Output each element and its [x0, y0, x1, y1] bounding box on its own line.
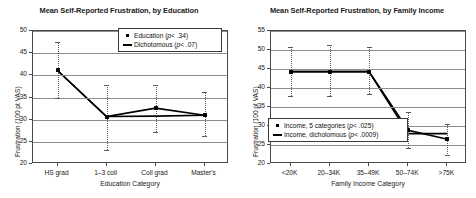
legend-p-value: < .34) [171, 32, 188, 39]
error-bar-cap [153, 85, 158, 86]
y-tick-mark [29, 74, 32, 75]
legend-family-income: Income, 5 categories (p < .025)Income, d… [268, 118, 408, 142]
gridline [271, 31, 465, 32]
gridline [33, 98, 227, 99]
legend-marker-icon [272, 124, 283, 127]
y-tick-label: 40 [246, 83, 265, 90]
data-point-marker [154, 106, 158, 110]
y-tick-label: 35 [8, 93, 27, 100]
x-tick-mark [106, 163, 107, 166]
legend-line-icon [122, 44, 133, 46]
legend-label: Income, 5 categories ( [283, 122, 349, 129]
y-tick-label: 20 [8, 159, 27, 166]
line-marker-icon [273, 134, 282, 136]
series-polyline [58, 70, 205, 116]
error-bar-cap [202, 92, 207, 93]
error-bar-cap [445, 124, 450, 125]
panel-title-family-income: Mean Self-Reported Frustration, by Famil… [238, 6, 476, 15]
data-point-marker [105, 115, 109, 119]
y-tick-mark [29, 163, 32, 164]
error-bar-cap [104, 85, 109, 86]
square-marker-icon [126, 34, 129, 37]
y-tick-mark [267, 30, 270, 31]
gridline [271, 50, 465, 51]
legend-label: Income, dicholomous ( [283, 131, 350, 138]
x-tick-label: Master's [174, 169, 234, 176]
y-tick-label: 45 [8, 48, 27, 55]
error-bar-cap [445, 155, 450, 156]
legend-item: Education (p < .34) [122, 31, 217, 40]
legend-item: Dichotomous (p < .07) [122, 40, 217, 49]
y-tick-mark [267, 106, 270, 107]
y-tick-mark [29, 30, 32, 31]
data-point-marker [328, 70, 332, 74]
error-bar-cap [153, 132, 158, 133]
data-point-marker [203, 113, 207, 117]
x-tick-mark [290, 163, 291, 166]
y-tick-label: 30 [246, 121, 265, 128]
y-tick-label: 35 [246, 102, 265, 109]
x-tick-mark [329, 163, 330, 166]
panel-family-income: Mean Self-Reported Frustration, by Famil… [238, 0, 476, 198]
y-tick-label: 25 [246, 140, 265, 147]
y-tick-label: 45 [246, 64, 265, 71]
gridline [33, 142, 227, 143]
y-tick-label: 30 [8, 115, 27, 122]
panel-title-education: Mean Self-Reported Frustration, by Educa… [0, 6, 238, 15]
error-bar-cap [104, 150, 109, 151]
legend-marker-icon [122, 34, 133, 37]
y-tick-mark [267, 68, 270, 69]
gridline [271, 145, 465, 146]
y-tick-mark [29, 141, 32, 142]
legend-line-icon [272, 134, 283, 136]
x-tick-mark [204, 163, 205, 166]
gridline [33, 120, 227, 121]
data-point-marker [367, 70, 371, 74]
square-marker-icon [276, 124, 279, 127]
legend-item: Income, 5 categories (p < .025) [272, 121, 403, 130]
figure-two-panel-chart: Mean Self-Reported Frustration, by Educa… [0, 0, 476, 198]
plot-area-family-income [270, 30, 466, 163]
y-tick-mark [267, 87, 270, 88]
y-tick-mark [29, 97, 32, 98]
y-tick-label: 50 [8, 26, 27, 33]
y-tick-label: 50 [246, 45, 265, 52]
error-bar-cap [288, 47, 293, 48]
data-point-marker [289, 70, 293, 74]
y-tick-mark [29, 119, 32, 120]
y-tick-label: 40 [8, 70, 27, 77]
legend-p-value: < .025) [353, 122, 374, 129]
y-tick-mark [29, 52, 32, 53]
x-tick-label: >75K [416, 169, 476, 176]
legend-item: Income, dicholomous (p < .0009) [272, 130, 403, 139]
y-tick-label: 20 [246, 159, 265, 166]
x-tick-mark [57, 163, 58, 166]
gridline [33, 75, 227, 76]
y-tick-mark [267, 144, 270, 145]
error-bar-cap [367, 47, 372, 48]
error-bar-cap [406, 148, 411, 149]
x-axis-label-education: Education Category [32, 180, 228, 187]
data-point-marker [445, 137, 449, 141]
legend-label: Dichotomous ( [133, 41, 177, 48]
data-point-marker [56, 68, 60, 72]
x-tick-mark [155, 163, 156, 166]
gridline [271, 88, 465, 89]
x-tick-mark [368, 163, 369, 166]
error-bar-cap [55, 98, 60, 99]
x-axis-label-family-income: Family Income Category [270, 180, 466, 187]
y-tick-label: 25 [8, 137, 27, 144]
x-tick-mark [446, 163, 447, 166]
error-bar-cap [327, 45, 332, 46]
error-bar-cap [202, 136, 207, 137]
gridline [271, 107, 465, 108]
error-bar-cap [367, 94, 372, 95]
legend-p-value: < .07) [180, 41, 197, 48]
error-bar-cap [406, 112, 411, 113]
legend-p-value: < .0009) [354, 131, 378, 138]
gridline [33, 53, 227, 54]
legend-label: Education ( [133, 32, 167, 39]
y-tick-label: 55 [246, 26, 265, 33]
y-tick-mark [267, 163, 270, 164]
x-tick-mark [407, 163, 408, 166]
